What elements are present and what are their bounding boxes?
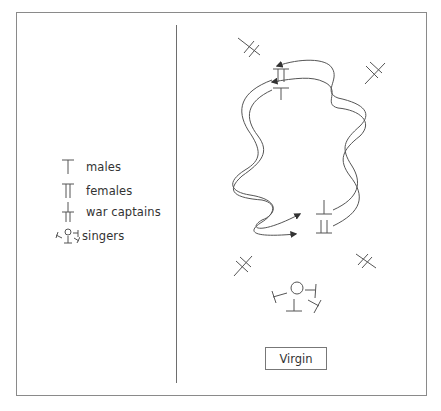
virgin-label-box: Virgin [265, 347, 327, 370]
male-top-icon [273, 88, 289, 100]
war-captain-bottom-left-icon [234, 256, 252, 276]
singers-group-icon [272, 282, 321, 313]
female-bottom-icon [316, 220, 332, 233]
right-dance-path [272, 60, 366, 226]
war-captain-top-left-icon [238, 38, 260, 57]
war-captain-bottom-right-icon [356, 254, 376, 268]
left-dance-path [233, 80, 300, 235]
dance-diagram [0, 0, 441, 411]
war-captain-top-right-icon [365, 62, 385, 84]
virgin-label: Virgin [279, 352, 312, 366]
male-bottom-icon [316, 200, 332, 214]
